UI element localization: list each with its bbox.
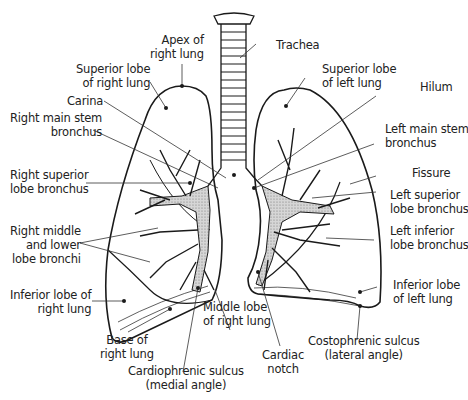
- label-inferior-lobe-right: Inferior lobe of right lung: [10, 288, 91, 316]
- label-right-main-stem-bronchus: Right main stem bronchus: [10, 111, 102, 139]
- label-carina: Carina: [67, 94, 103, 108]
- label-hilum: Hilum: [420, 80, 453, 94]
- label-left-inferior-lobe-bronchus: Left inferior lobe bronchus: [390, 224, 468, 252]
- label-superior-lobe-left: Superior lobe of left lung: [322, 62, 396, 90]
- bronchial-tree: [150, 186, 334, 292]
- label-right-middle-lower-lobe-bronchi: Right middle and lower lobe bronchi: [10, 224, 81, 266]
- label-trachea: Trachea: [276, 38, 319, 52]
- lung-anatomy-diagram: Apex of right lung Trachea Superior lobe…: [0, 0, 468, 400]
- label-middle-lobe-right: Middle lobe of right lung: [203, 300, 271, 328]
- label-cardiophrenic-sulcus: Cardiophrenic sulcus (medial angle): [128, 364, 244, 392]
- label-costophrenic-sulcus: Costophrenic sulcus (lateral angle): [308, 334, 419, 362]
- label-left-superior-lobe-bronchus: Left superior lobe bronchus: [390, 188, 468, 216]
- label-superior-lobe-right: Superior lobe of right lung: [76, 62, 150, 90]
- label-inferior-lobe-left: Inferior lobe of left lung: [393, 278, 460, 306]
- label-left-main-stem-bronchus: Left main stem bronchus: [385, 122, 468, 150]
- label-base-right-lung: Base of right lung: [100, 333, 154, 361]
- label-cardiac-notch: Cardiac notch: [262, 348, 304, 376]
- label-apex-right-lung: Apex of right lung: [150, 33, 204, 61]
- label-right-superior-lobe-bronchus: Right superior lobe bronchus: [10, 168, 89, 196]
- label-fissure: Fissure: [412, 166, 450, 180]
